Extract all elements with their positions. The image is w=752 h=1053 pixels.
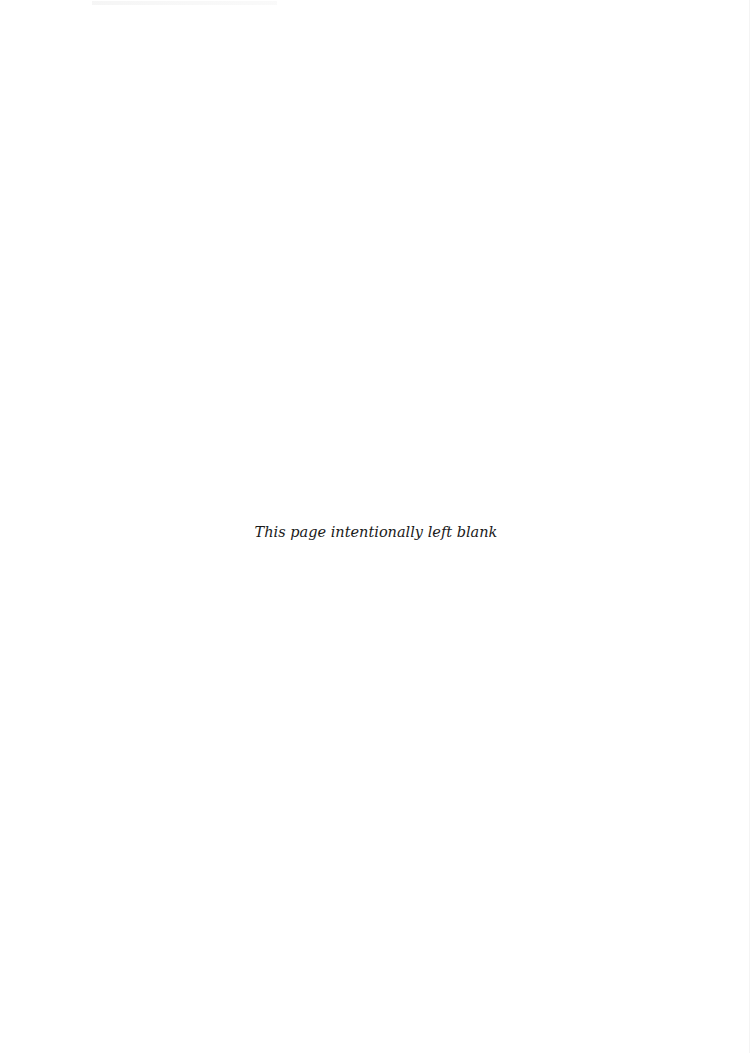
show-through-artifact bbox=[92, 1, 277, 5]
blank-page-notice: This page intentionally left blank bbox=[0, 522, 752, 542]
document-page: This page intentionally left blank bbox=[0, 0, 752, 1053]
